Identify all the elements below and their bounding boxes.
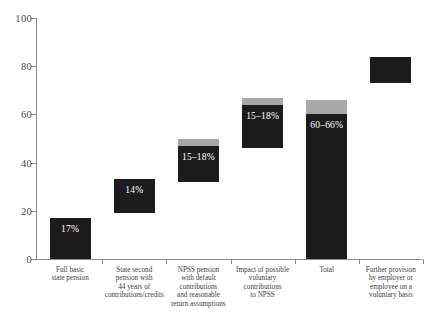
category-label-line: contributions xyxy=(162,283,234,291)
category-label-line: 44 years of xyxy=(98,283,170,291)
category-label-line: employee on a xyxy=(355,283,426,291)
x-tick-mark xyxy=(102,259,103,264)
category-label-npss-pension-default: NPSS pensionwith defaultcontributionsand… xyxy=(162,266,234,308)
plot-area xyxy=(36,18,421,259)
waterfall-chart: 020406080100 Full basicstate pensionStat… xyxy=(0,0,426,318)
bar-segment-upper-range xyxy=(178,139,219,146)
category-label-line: by employer or xyxy=(355,274,426,282)
y-tick-label: 40 xyxy=(21,157,32,168)
bar-total: 60–66% xyxy=(306,100,347,259)
category-label-state-second-pension: State secondpension with44 years ofcontr… xyxy=(98,266,170,300)
category-label-line: contributions/credits xyxy=(98,291,170,299)
y-tick-label: 80 xyxy=(21,61,32,72)
x-tick-mark xyxy=(359,259,360,264)
bar-npss-pension-default: 15–18% xyxy=(178,139,219,182)
bar-further-provision-employer-employee xyxy=(370,57,411,84)
bar-full-basic-state-pension: 17% xyxy=(50,218,91,259)
category-label-line: state pension xyxy=(34,274,106,282)
category-label-line: voluntary xyxy=(227,274,299,282)
category-label-line: Full basic xyxy=(34,266,106,274)
y-tick-label: 0 xyxy=(26,254,32,265)
bar-state-second-pension: 14% xyxy=(114,179,155,213)
category-label-line: with default xyxy=(162,274,234,282)
bar-segment-main xyxy=(242,105,283,148)
x-tick-mark xyxy=(295,259,296,264)
category-label-further-provision-employer-employee: Further provisionby employer oremployee … xyxy=(355,266,426,300)
category-label-total: Total xyxy=(291,266,363,274)
bar-impact-voluntary-contributions: 15–18% xyxy=(242,98,283,149)
category-label-line: and reasonable xyxy=(162,291,234,299)
category-label-line: State second xyxy=(98,266,170,274)
bar-segment-upper-range xyxy=(242,98,283,105)
x-axis-line xyxy=(36,259,422,260)
x-tick-mark xyxy=(423,259,424,264)
x-tick-mark xyxy=(166,259,167,264)
bar-segment-main xyxy=(306,114,347,259)
bar-segment-main xyxy=(50,218,91,259)
category-label-line: voluntary basis xyxy=(355,291,426,299)
y-tick-label: 20 xyxy=(21,205,32,216)
category-label-line: to NPSS xyxy=(227,291,299,299)
y-tick-label: 60 xyxy=(21,109,32,120)
category-label-line: Impact of possible xyxy=(227,266,299,274)
bar-segment-main xyxy=(370,57,411,84)
x-tick-mark xyxy=(231,259,232,264)
category-label-line: pension with xyxy=(98,274,170,282)
category-label-line: return assumptions xyxy=(162,300,234,308)
category-label-line: contributions xyxy=(227,283,299,291)
category-label-line: NPSS pension xyxy=(162,266,234,274)
y-tick-label: 100 xyxy=(15,13,32,24)
category-label-impact-voluntary-contributions: Impact of possiblevoluntarycontributions… xyxy=(227,266,299,300)
category-label-line: Total xyxy=(291,266,363,274)
category-label-line: Further provision xyxy=(355,266,426,274)
category-label-full-basic-state-pension: Full basicstate pension xyxy=(34,266,106,283)
bar-segment-upper-range xyxy=(306,100,347,114)
bar-segment-main xyxy=(114,179,155,213)
bar-segment-main xyxy=(178,146,219,182)
